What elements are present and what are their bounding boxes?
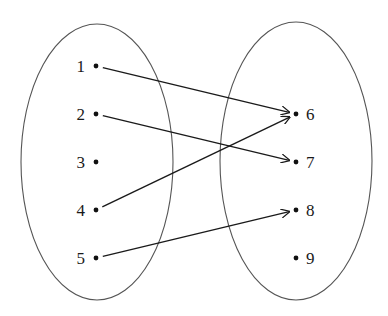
- arrow-4-to-6: [102, 117, 289, 207]
- domain-element-1: 1: [77, 57, 99, 76]
- point-dot: [294, 256, 299, 261]
- domain-element-3: 3: [77, 153, 99, 172]
- element-label: 4: [77, 201, 86, 220]
- element-label: 7: [306, 153, 315, 172]
- domain-element-4: 4: [77, 201, 99, 220]
- domain-element-5: 5: [77, 249, 99, 268]
- element-label: 8: [306, 201, 315, 220]
- arrow-5-to-8: [103, 212, 289, 257]
- point-dot: [94, 160, 99, 165]
- element-label: 6: [306, 105, 315, 124]
- domain-element-2: 2: [77, 105, 99, 124]
- codomain-element-9: 9: [294, 249, 315, 268]
- codomain-element-7: 7: [294, 153, 315, 172]
- arrow-2-to-7: [103, 116, 289, 161]
- point-dot: [94, 208, 99, 213]
- element-label: 2: [77, 105, 86, 124]
- point-dot: [94, 256, 99, 261]
- mapping-arrows: [102, 68, 289, 257]
- arrow-1-to-6: [103, 68, 289, 113]
- codomain-element-8: 8: [294, 201, 315, 220]
- domain-elements: 12345: [77, 57, 99, 268]
- element-label: 3: [77, 153, 86, 172]
- point-dot: [294, 160, 299, 165]
- point-dot: [94, 64, 99, 69]
- point-dot: [294, 208, 299, 213]
- point-dot: [94, 112, 99, 117]
- point-dot: [294, 112, 299, 117]
- element-label: 5: [77, 249, 86, 268]
- element-label: 1: [77, 57, 86, 76]
- codomain-elements: 6789: [294, 105, 315, 268]
- codomain-element-6: 6: [294, 105, 315, 124]
- mapping-diagram: 12345 6789: [0, 0, 388, 316]
- element-label: 9: [306, 249, 315, 268]
